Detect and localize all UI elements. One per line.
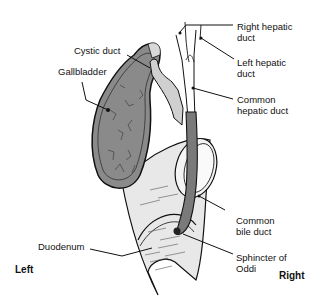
label-right-hepatic-duct: Right hepatic duct — [237, 22, 292, 43]
orientation-left: Left — [15, 265, 33, 276]
sphincter-of-oddi-shape — [174, 228, 181, 235]
label-left-hepatic-duct: Left hepatic duct — [237, 58, 286, 79]
label-duodenum: Duodenum — [38, 242, 84, 253]
label-gallbladder: Gallbladder — [58, 67, 107, 78]
orientation-right: Right — [279, 271, 305, 282]
label-common-hepatic-duct: Common hepatic duct — [237, 95, 288, 116]
label-common-bile-duct: Common bile duct — [236, 216, 275, 237]
cystic-duct-shape — [150, 59, 183, 125]
label-cystic-duct: Cystic duct — [74, 46, 120, 57]
